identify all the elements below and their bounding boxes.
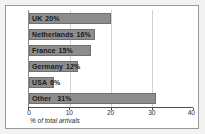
bar-row-uk[interactable]: UK20% (29, 13, 193, 24)
x-tick-label-0: 0 (27, 108, 31, 117)
x-tick-label-10: 10 (66, 108, 73, 117)
chart-frame: UK20% Netherlands16% France15% Germany12… (5, 5, 199, 129)
x-tick-label-30: 30 (148, 108, 155, 117)
bar-label-usa-value: 6% (50, 79, 60, 86)
bar-label-germany-name: Germany (32, 63, 63, 70)
bar-label-usa: USA6% (32, 77, 60, 88)
bar-row-france[interactable]: France15% (29, 45, 193, 56)
bar-row-other[interactable]: Other31% (29, 93, 193, 104)
bar-chart-figure: UK20% Netherlands16% France15% Germany12… (0, 0, 205, 134)
bar-label-other-value: 31% (57, 95, 71, 102)
x-tick-label-40: 40 (188, 108, 195, 117)
bar-label-uk: UK20% (32, 13, 60, 24)
bar-label-other-name: Other (32, 95, 51, 102)
bar-label-other: Other31% (32, 93, 71, 104)
bar-label-netherlands-value: 16% (77, 31, 91, 38)
bar-row-netherlands[interactable]: Netherlands16% (29, 29, 193, 40)
bar-series: UK20% Netherlands16% France15% Germany12… (29, 10, 193, 107)
x-axis-title: % of total arrivals (30, 117, 80, 124)
bar-label-france-value: 15% (59, 47, 73, 54)
bar-label-usa-name: USA (32, 79, 47, 86)
bar-label-netherlands: Netherlands16% (32, 29, 91, 40)
bar-row-germany[interactable]: Germany12% (29, 61, 193, 72)
bar-label-netherlands-name: Netherlands (32, 31, 74, 38)
bar-label-germany: Germany12% (32, 61, 80, 72)
bar-label-france-name: France (32, 47, 56, 54)
bar-label-uk-name: UK (32, 15, 42, 22)
bar-label-uk-value: 20% (45, 15, 59, 22)
bar-label-germany-value: 12% (66, 63, 80, 70)
plot-area: UK20% Netherlands16% France15% Germany12… (28, 10, 193, 107)
x-tick-label-20: 20 (107, 108, 114, 117)
bar-row-usa[interactable]: USA6% (29, 77, 193, 88)
bar-label-france: France15% (32, 45, 73, 56)
